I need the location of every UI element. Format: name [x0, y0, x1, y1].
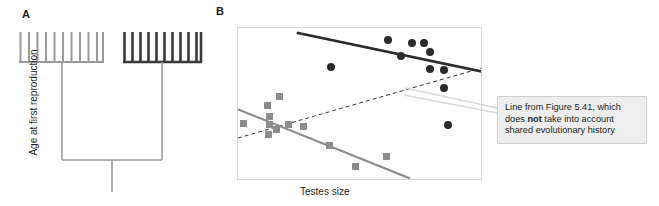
figure-container: A B: [0, 0, 659, 206]
data-point-circle: [444, 121, 452, 129]
data-point-circle: [384, 36, 392, 44]
data-point-square: [383, 153, 390, 160]
data-point-square: [352, 163, 359, 170]
data-point-circle: [420, 39, 428, 47]
x-axis-label: Testes size: [300, 186, 349, 197]
data-point-square: [300, 123, 307, 130]
data-point-square: [264, 102, 271, 109]
data-point-circle: [327, 63, 335, 71]
dark-clade-markers: [327, 36, 452, 129]
data-point-circle: [397, 52, 405, 60]
data-point-square: [276, 93, 283, 100]
data-point-circle: [440, 66, 448, 74]
cladogram-internal-branches: [62, 62, 162, 192]
data-point-square: [265, 131, 272, 138]
data-point-square: [266, 121, 273, 128]
data-point-square: [285, 121, 292, 128]
callout-leader-lines: [404, 88, 497, 113]
data-point-circle: [426, 65, 434, 73]
y-axis-label: Age at first reproduction: [28, 28, 39, 178]
data-point-circle: [440, 84, 448, 92]
data-point-circle: [408, 39, 416, 47]
dark-clade-regression-line: [298, 33, 489, 73]
callout-annotation-box: Line from Figure 5.41, which does not ta…: [497, 96, 647, 144]
data-point-circle: [426, 48, 434, 56]
callout-emphasis-not: not: [527, 114, 541, 124]
data-point-square: [240, 120, 247, 127]
data-point-square: [273, 126, 280, 133]
data-point-square: [266, 113, 273, 120]
gray-clade-regression-line: [237, 109, 409, 178]
cladogram-right-clade: [123, 32, 202, 62]
gray-clade-markers: [240, 93, 390, 170]
data-point-square: [326, 142, 333, 149]
